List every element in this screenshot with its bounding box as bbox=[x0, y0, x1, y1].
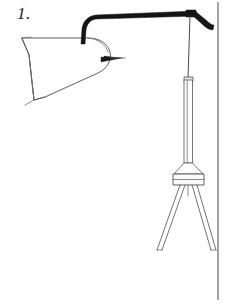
support-arm bbox=[81, 10, 196, 44]
right-leg bbox=[192, 185, 216, 250]
socket-spike bbox=[101, 56, 125, 62]
arm-tip bbox=[193, 11, 214, 30]
lamp-line-drawing bbox=[0, 0, 235, 305]
left-leg bbox=[157, 185, 185, 250]
suspension-wire bbox=[188, 16, 190, 79]
cone-hub bbox=[174, 163, 203, 174]
figure-root: 1. bbox=[0, 0, 235, 305]
vertical-tube bbox=[184, 80, 193, 163]
hub-band bbox=[173, 174, 204, 185]
lamp-shade bbox=[22, 37, 110, 105]
